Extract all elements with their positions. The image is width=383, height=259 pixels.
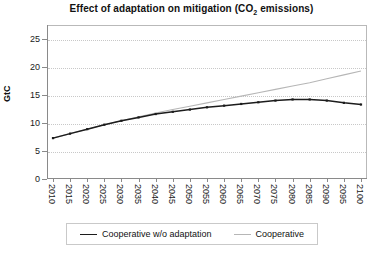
chart-legend: Cooperative w/o adaptation Cooperative xyxy=(66,223,318,245)
series-line xyxy=(53,71,361,138)
chart-container: Effect of adaptation on mitigation (CO2 … xyxy=(0,0,383,259)
series-point-marker xyxy=(257,101,259,103)
series-point-marker xyxy=(206,106,208,108)
legend-item-cooperative: Cooperative xyxy=(234,229,305,239)
series-point-marker xyxy=(223,105,225,107)
series-point-marker xyxy=(69,133,71,135)
series-point-marker xyxy=(155,113,157,115)
series-point-marker xyxy=(172,111,174,113)
legend-label: Cooperative w/o adaptation xyxy=(102,229,212,239)
series-point-marker xyxy=(86,128,88,130)
series-point-marker xyxy=(120,120,122,122)
legend-item-cooperative-wo-adaptation: Cooperative w/o adaptation xyxy=(80,229,212,239)
series-point-marker xyxy=(326,100,328,102)
series-line xyxy=(53,99,361,138)
legend-line-icon xyxy=(80,234,97,235)
series-point-marker xyxy=(360,103,362,105)
series-point-marker xyxy=(291,98,293,100)
series-point-marker xyxy=(343,102,345,104)
legend-line-icon xyxy=(234,234,251,235)
series-point-marker xyxy=(52,137,54,139)
series-point-marker xyxy=(189,108,191,110)
series-point-marker xyxy=(103,124,105,126)
series-point-marker xyxy=(240,103,242,105)
series-lines xyxy=(0,0,383,259)
series-point-marker xyxy=(274,100,276,102)
legend-label: Cooperative xyxy=(256,229,305,239)
series-point-marker xyxy=(309,98,311,100)
series-point-marker xyxy=(137,116,139,118)
